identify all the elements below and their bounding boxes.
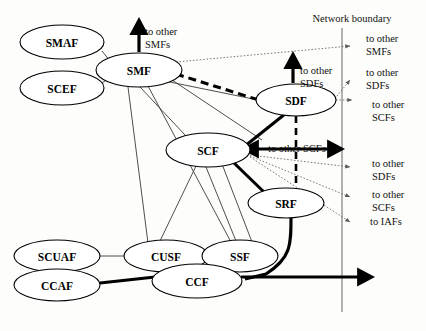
network-boundary-title: Network boundary — [312, 13, 392, 24]
node-label-smaf: SMAF — [46, 37, 79, 49]
nodes-layer: SMAFSCEFSMFSDFSCFSRFSCUAFCUSFSSFCCFCCAF — [14, 25, 336, 301]
node-smf[interactable]: SMF — [96, 53, 182, 87]
node-label-ssf: SSF — [230, 251, 250, 263]
node-label-cusf: CUSF — [151, 251, 181, 263]
label-b2: to otherSDFs — [366, 67, 399, 91]
label-sdf-up: to otherSDFs — [300, 65, 333, 89]
arrow-scf-to-other-sdfs — [250, 155, 350, 167]
label-sdf-up-line2: SDFs — [300, 78, 323, 89]
node-scf[interactable]: SCF — [166, 133, 250, 167]
label-b1-line1: to other — [366, 33, 399, 44]
node-label-sdf: SDF — [285, 95, 307, 107]
label-smf-up-line1: to other — [145, 26, 178, 37]
label-scf-right: to other SCFs — [268, 143, 326, 154]
label-b5-line1: to other — [372, 189, 405, 200]
diagram-canvas: SMAFSCEFSMFSDFSCFSRFSCUAFCUSFSSFCCFCCAF … — [0, 0, 426, 331]
label-b2-line2: SDFs — [366, 80, 389, 91]
label-b3-line2: SCFs — [372, 112, 395, 123]
label-smf-up: to otherSMFs — [145, 26, 178, 50]
label-b6-line1: to IAFs — [370, 216, 402, 227]
node-label-ccaf: CCAF — [41, 280, 73, 292]
arrow-smf-to-other-smfs — [176, 46, 350, 62]
edge-sdf-scf — [245, 114, 285, 146]
label-sdf-up-line1: to other — [300, 65, 333, 76]
label-b1-line2: SMFs — [366, 46, 391, 57]
node-label-srf: SRF — [275, 198, 297, 210]
node-srf[interactable]: SRF — [248, 188, 324, 218]
label-scf-right-line1: to other SCFs — [268, 143, 326, 154]
label-b6: to IAFs — [370, 216, 402, 227]
label-b4-line2: SDFs — [372, 171, 395, 182]
label-b5-line2: SCFs — [372, 202, 395, 213]
label-b4: to otherSDFs — [372, 158, 405, 182]
node-scef[interactable]: SCEF — [20, 71, 104, 105]
node-label-scf: SCF — [197, 145, 219, 157]
label-b5: to otherSCFs — [372, 189, 405, 213]
node-smaf[interactable]: SMAF — [20, 25, 104, 59]
node-label-scef: SCEF — [47, 83, 76, 95]
label-smf-up-line2: SMFs — [145, 39, 170, 50]
edge-scf-srf — [233, 162, 266, 194]
edge-smf-sdf-thin — [160, 80, 258, 100]
network-architecture-diagram: SMAFSCEFSMFSDFSCFSRFSCUAFCUSFSSFCCFCCAF … — [0, 0, 426, 331]
node-label-scuaf: SCUAF — [38, 251, 76, 263]
node-sdf[interactable]: SDF — [256, 84, 336, 116]
label-b2-line1: to other — [366, 67, 399, 78]
node-ccaf[interactable]: CCAF — [14, 269, 100, 301]
label-b3-line1: to other — [372, 99, 405, 110]
edge-smf-cusf — [128, 87, 148, 243]
label-b4-line1: to other — [372, 158, 405, 169]
edge-scf-cusf — [160, 166, 196, 241]
edge-ccaf-ccf — [100, 277, 155, 283]
node-label-ccf: CCF — [185, 276, 209, 288]
edge-smf-sdf-dashed — [176, 74, 262, 101]
node-label-smf: SMF — [127, 65, 151, 77]
label-b3: to otherSCFs — [372, 99, 405, 123]
edge-smf-scf — [140, 87, 185, 135]
node-ccf[interactable]: CCF — [152, 264, 242, 298]
node-scuaf[interactable]: SCUAF — [14, 240, 100, 272]
label-b1: to otherSMFs — [366, 33, 399, 57]
